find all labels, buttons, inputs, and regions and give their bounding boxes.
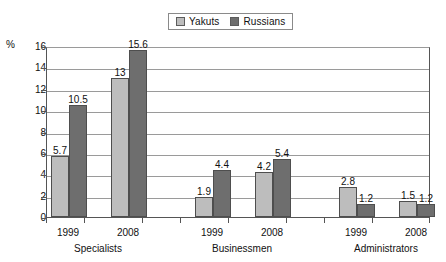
chart-legend: Yakuts Russians (168, 13, 293, 30)
y-tick-label: 4 (6, 170, 46, 180)
gridline (47, 91, 429, 92)
y-tick-label: 2 (6, 192, 46, 202)
bar-administrators-2008-russians (417, 204, 435, 217)
legend-entry-russians: Russians (230, 17, 285, 27)
bar-value-label: 1.2 (410, 194, 442, 204)
bar-businessmen-1999-russians (213, 170, 231, 217)
x-tick-label-1999: 1999 (334, 228, 378, 238)
x-tick-label-2008: 2008 (394, 228, 438, 238)
y-tick-label: 16 (6, 42, 46, 52)
y-tick-label: 12 (6, 85, 46, 95)
bar-businessmen-2008-russians (273, 159, 291, 217)
gridline (47, 112, 429, 113)
legend-swatch-russians-icon (230, 17, 239, 26)
legend-label-russians: Russians (243, 17, 285, 27)
bar-value-label: 10.5 (62, 95, 94, 105)
legend-entry-yakuts: Yakuts (176, 17, 219, 27)
bar-value-label: 4.4 (206, 160, 238, 170)
bar-specialists-1999-russians (69, 105, 87, 217)
bar-chart: Yakuts Russians % 0246810121416 5.710.51… (0, 0, 446, 262)
x-tick-mark (180, 218, 181, 223)
bar-value-label: 1.2 (350, 194, 382, 204)
bar-value-label: 2.8 (332, 177, 364, 187)
x-tick-mark (429, 218, 430, 223)
x-tick-mark (372, 218, 373, 223)
bar-administrators-1999-russians (357, 204, 375, 217)
y-tick-label: 14 (6, 63, 46, 73)
bar-specialists-1999-yakuts (51, 156, 69, 217)
y-axis: 0246810121416 (0, 47, 46, 218)
x-tick-label-2008: 2008 (250, 228, 294, 238)
x-tick-mark (286, 218, 287, 223)
x-tick-mark (84, 218, 85, 223)
bar-businessmen-1999-yakuts (195, 197, 213, 217)
y-tick-label: 8 (6, 128, 46, 138)
x-tick-mark (324, 218, 325, 223)
bar-specialists-2008-russians (129, 50, 147, 217)
gridline (47, 176, 429, 177)
x-tick-label-2008: 2008 (106, 228, 150, 238)
bar-businessmen-2008-yakuts (255, 172, 273, 217)
x-tick-mark (46, 218, 47, 223)
bar-value-label: 5.4 (266, 149, 298, 159)
x-group-label-administrators: Administrators (336, 244, 436, 254)
x-axis: 19992008Specialists19992008Businessmen19… (46, 218, 430, 262)
legend-label-yakuts: Yakuts (189, 17, 219, 27)
x-tick-label-1999: 1999 (190, 228, 234, 238)
x-tick-mark (142, 218, 143, 223)
x-group-label-businessmen: Businessmen (192, 244, 292, 254)
plot-area: 5.710.51315.61.94.44.25.42.81.21.51.2 (46, 47, 430, 218)
x-group-label-specialists: Specialists (48, 244, 148, 254)
y-tick-label: 0 (6, 213, 46, 223)
gridline (47, 134, 429, 135)
x-tick-label-1999: 1999 (46, 228, 90, 238)
y-tick-label: 10 (6, 106, 46, 116)
legend-swatch-yakuts-icon (176, 17, 185, 26)
x-tick-mark (228, 218, 229, 223)
gridline (47, 155, 429, 156)
y-tick-label: 6 (6, 149, 46, 159)
bar-specialists-2008-yakuts (111, 78, 129, 217)
bar-value-label: 15.6 (122, 40, 154, 50)
